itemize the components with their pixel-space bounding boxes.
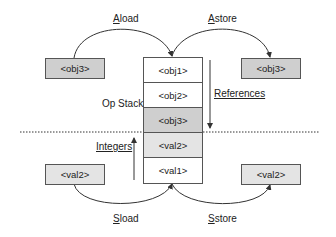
aload-label: Aload bbox=[113, 13, 139, 24]
aload-arrow bbox=[74, 29, 172, 58]
integers-label: Integers bbox=[96, 141, 132, 152]
operand-stack: <obj1> <obj2> <obj3> <val2> <val1> bbox=[143, 57, 203, 184]
left-int-box: <val2> bbox=[45, 164, 105, 185]
left-ref-box: <obj3> bbox=[45, 58, 105, 79]
stack-cell: <val2> bbox=[144, 133, 202, 158]
stack-cell: <val1> bbox=[144, 158, 202, 183]
sstore-label: Sstore bbox=[208, 213, 237, 224]
astore-arrow bbox=[172, 29, 270, 57]
op-stack-label: Op Stack bbox=[102, 98, 143, 109]
stack-cell: <obj1> bbox=[144, 58, 202, 83]
sload-arrow bbox=[74, 184, 172, 204]
sload-label: Sload bbox=[113, 213, 139, 224]
right-int-box: <val2> bbox=[241, 164, 301, 185]
sstore-arrow bbox=[172, 184, 270, 204]
stack-cell: <obj2> bbox=[144, 83, 202, 108]
astore-label: Astore bbox=[208, 13, 237, 24]
references-label: References bbox=[214, 88, 265, 99]
right-ref-box: <obj3> bbox=[241, 58, 301, 79]
stack-cell: <obj3> bbox=[144, 108, 202, 133]
